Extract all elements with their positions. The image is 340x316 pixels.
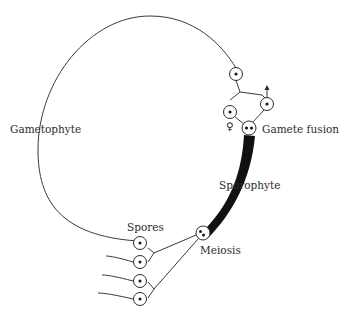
new-gametophyte-line <box>98 293 133 299</box>
female-gamete <box>224 106 237 119</box>
life-cycle-diagram: ♀ Gamete fusion Sporophyte Meiosis Spore… <box>0 0 340 316</box>
branch-line <box>230 81 240 101</box>
meiosis-cell <box>196 226 210 240</box>
spore-cell <box>134 256 147 269</box>
male-gamete <box>261 98 274 111</box>
zygote-cell <box>242 121 256 135</box>
meiosis-branch <box>148 239 198 289</box>
gamete-fusion-label: Gamete fusion <box>262 123 339 135</box>
meiosis-branch <box>148 253 154 262</box>
new-gametophyte-line <box>106 256 133 262</box>
gametophyte-label: Gametophyte <box>10 123 81 135</box>
fusion-line <box>253 110 264 122</box>
gametophyte-cell-top <box>230 68 243 81</box>
fusion-line <box>235 117 244 124</box>
meiosis-branch <box>148 289 154 298</box>
female-symbol: ♀ <box>226 120 234 132</box>
spore-cell <box>134 275 147 288</box>
spores-label: Spores <box>127 221 164 233</box>
new-gametophyte-line <box>102 275 133 281</box>
meiosis-branch <box>148 235 196 253</box>
arrow-up-icon <box>265 85 270 90</box>
sporophyte-label: Sporophyte <box>219 179 280 191</box>
meiosis-label: Meiosis <box>200 244 241 256</box>
spore-cell <box>134 293 147 306</box>
spore-cell <box>134 237 147 250</box>
